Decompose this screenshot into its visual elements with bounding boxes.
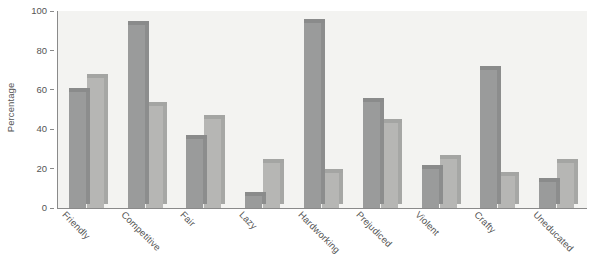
bar-group	[69, 11, 104, 208]
plot-area	[57, 11, 587, 209]
bar-front-face	[422, 169, 439, 208]
bar	[128, 25, 145, 208]
bar-front-face	[69, 92, 86, 208]
bar-side-face	[457, 155, 461, 204]
bar-front-face	[304, 23, 321, 208]
y-axis-tick-label: 80	[36, 45, 50, 55]
y-axis-tick-mark	[50, 11, 54, 12]
y-axis-title-text: Percentage	[6, 82, 17, 132]
bar-side-face	[321, 19, 325, 204]
y-axis-tick-mark	[50, 50, 54, 51]
bar-front-face	[245, 196, 262, 208]
bar-front-face	[363, 102, 380, 208]
bar	[245, 196, 262, 208]
bar-side-face	[574, 159, 578, 204]
bar-side-face	[221, 115, 225, 204]
bar-side-face	[515, 172, 519, 204]
y-axis-title: Percentage	[0, 0, 22, 214]
x-axis-tick-label: Crafty	[472, 209, 498, 235]
bar-front-face	[539, 182, 556, 208]
bar-front-face	[128, 25, 145, 208]
bar-group	[480, 11, 515, 208]
bar	[539, 182, 556, 208]
bar	[363, 102, 380, 208]
bar-side-face	[398, 119, 402, 204]
bar	[69, 92, 86, 208]
bar-side-face	[163, 102, 167, 204]
bar-side-face	[339, 169, 343, 204]
y-axis-tick-label: 40	[36, 124, 50, 134]
bar-side-face	[439, 165, 443, 204]
x-axis-tick-label: Competitive	[119, 209, 163, 253]
y-axis-tick-label: 0	[42, 203, 50, 213]
bar-side-face	[104, 74, 108, 204]
x-axis-tick-label: Friendly	[61, 209, 93, 241]
y-axis-tick-mark	[50, 168, 54, 169]
y-axis-tick-label: 100	[31, 6, 50, 16]
bar-group	[539, 11, 574, 208]
bar	[480, 70, 497, 208]
x-axis-tick-label: Lazy	[237, 209, 259, 231]
bar-side-face	[145, 21, 149, 204]
y-axis-tick-mark	[50, 208, 54, 209]
bar-group	[304, 11, 339, 208]
x-axis-tick-label: Prejudiced	[354, 209, 394, 249]
bar-side-face	[380, 98, 384, 204]
bar-group	[363, 11, 398, 208]
y-axis-tick-label: 60	[36, 85, 50, 95]
bar	[304, 23, 321, 208]
bar-side-face	[497, 66, 501, 204]
bar-chart: Percentage 020406080100 FriendlyCompetit…	[0, 0, 589, 274]
y-axis-tick-mark	[50, 89, 54, 90]
bar-group	[245, 11, 280, 208]
bar	[422, 169, 439, 208]
x-axis-tick-label: Violent	[413, 209, 442, 238]
bar-group	[128, 11, 163, 208]
bar-front-face	[186, 139, 203, 208]
bar	[186, 139, 203, 208]
plot-inner	[58, 11, 587, 208]
y-axis-tick-label: 20	[36, 163, 50, 173]
bar-side-face	[203, 135, 207, 204]
y-axis: 020406080100	[22, 0, 54, 214]
x-axis-tick-label: Fair	[178, 209, 198, 229]
x-axis-tick-label: Uneducated	[531, 209, 576, 254]
bar-side-face	[280, 159, 284, 204]
x-axis-labels: FriendlyCompetitiveFairLazyHardworkingPr…	[57, 209, 586, 274]
bar-group	[422, 11, 457, 208]
y-axis-tick-mark	[50, 129, 54, 130]
bar-side-face	[86, 88, 90, 204]
x-axis-tick-label: Hardworking	[296, 209, 342, 255]
bar-front-face	[480, 70, 497, 208]
bar-group	[186, 11, 221, 208]
